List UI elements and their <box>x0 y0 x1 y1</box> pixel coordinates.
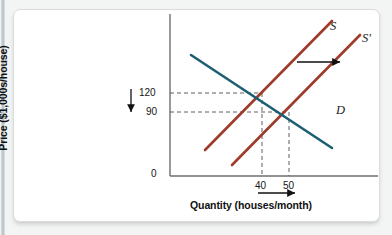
figure-page: Price ($1,000s/house) Quantity (houses/m… <box>0 0 392 235</box>
plot-area <box>0 0 392 235</box>
supply-shifted-curve <box>232 35 360 165</box>
supply-curve <box>205 21 332 150</box>
